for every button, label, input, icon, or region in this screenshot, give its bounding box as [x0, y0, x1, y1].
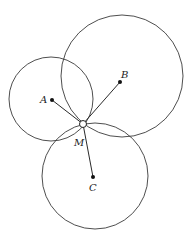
label-b: B: [120, 69, 128, 80]
segment-mb: [83, 82, 120, 124]
point-m: [80, 121, 87, 128]
point-a: [50, 98, 54, 102]
point-c: [91, 175, 95, 179]
label-a: A: [39, 94, 47, 105]
geometry-diagram: A B C M: [0, 0, 189, 237]
circles: [9, 15, 183, 229]
circle-c: [42, 123, 148, 229]
label-m: M: [73, 137, 85, 148]
segments: [52, 82, 120, 177]
label-c: C: [89, 182, 97, 193]
points: [50, 80, 122, 179]
point-b: [118, 80, 122, 84]
segment-mc: [83, 124, 93, 177]
